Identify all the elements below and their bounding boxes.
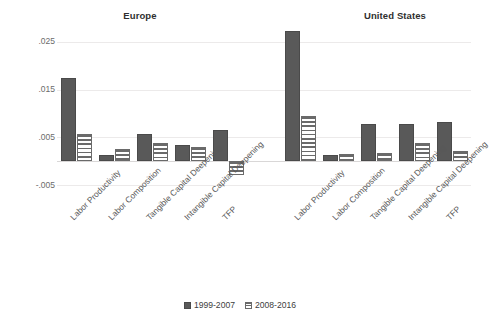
x-axis-tick-label: TFP xyxy=(444,204,462,222)
legend-label-2008-2016: 2008-2016 xyxy=(255,300,296,310)
legend-swatch-solid-icon xyxy=(184,302,191,309)
legend-entry-1999-2007: 1999-2007 xyxy=(184,300,235,310)
legend-swatch-hatched-icon xyxy=(245,302,252,309)
legend-label-1999-2007: 1999-2007 xyxy=(194,300,235,310)
legend-entry-2008-2016: 2008-2016 xyxy=(245,300,296,310)
x-axis-tick-label: Tangible Capital Deepening xyxy=(368,143,448,223)
x-axis-tick-label: TFP xyxy=(220,204,238,222)
x-axis-tick-label: Tangible Capital Deepening xyxy=(144,143,224,223)
chart-legend: 1999-2007 2008-2016 xyxy=(0,300,480,310)
